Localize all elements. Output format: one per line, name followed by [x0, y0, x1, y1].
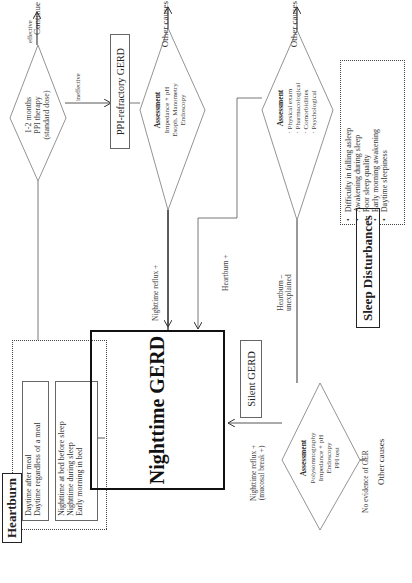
assessment-line: · Pharmacological	[293, 82, 301, 133]
ppi-therapy-text: 1-2 months PPI therapy (standard dose)	[24, 90, 52, 139]
label-line: (mucosal break +)	[258, 445, 266, 501]
nighttime-gerd-label: Nighttime GERD	[146, 336, 169, 484]
assessment-line: Endoscopy	[178, 83, 186, 137]
heartburn-title: Heartburn	[2, 473, 22, 543]
assessment-line: · Psychological	[309, 82, 317, 133]
ppi-line: (standard dose)	[43, 90, 52, 139]
flowchart-canvas: Heartburn Daytime after meal Daytime reg…	[0, 0, 412, 583]
assessment-line: Endoscopy	[324, 433, 332, 484]
heartburn-daytime-box: Daytime after meal Daytime regardless of…	[22, 381, 49, 521]
nighttime-reflux-mucosal-label: Nighttime reflux + (mucosal break +)	[250, 445, 267, 501]
sleep-item: Awakening during sleep	[353, 128, 362, 221]
daytime-item: Daytime regardless of a meal	[34, 386, 43, 516]
sleep-disturbances-title: Sleep Disturbances	[356, 208, 380, 328]
ppi-refractory-box: PPI-refractory GERD	[110, 34, 130, 149]
other-causes-refractory: Other causes	[160, 1, 170, 47]
assessment-clinical-text: Assessment · Physical exam · Pharmacolog…	[277, 82, 318, 133]
nighttime-item: Early morning in bed	[76, 386, 85, 516]
other-causes-clinical: Other causes	[289, 1, 299, 47]
heartburn-positive-label: Heartburn +	[222, 254, 230, 291]
assessment-title: Assessment	[153, 92, 162, 129]
sleep-item: Daytime sleepiness	[380, 128, 389, 221]
assessment-title: Assessment	[276, 90, 285, 127]
sleep-item: Early morning awakening	[371, 128, 380, 221]
label-line: unexplained	[285, 274, 293, 311]
assessment-title: Assessment	[299, 440, 308, 477]
ppi-refractory-label: PPI-refractory GERD	[115, 48, 126, 135]
assessment-silent-text: Assessment Polysomnography Impedance + p…	[300, 433, 341, 484]
nighttime-reflux-label: Nighttime reflux +	[152, 265, 160, 321]
assessment-line: · Physical exam	[285, 82, 293, 133]
assessment-line: Polysomnography	[308, 433, 316, 484]
nighttime-gerd-box: Nighttime GERD	[90, 330, 225, 490]
sleep-item: Poor sleep quality	[362, 128, 371, 221]
ppi-line: PPI therapy	[33, 90, 42, 139]
ineffective-label: ineffective	[74, 73, 81, 101]
assessment-line: · Comorbidities	[301, 82, 309, 133]
heartburn-unexplained-label: Heartburn – unexplained	[277, 274, 294, 311]
silent-gerd-label: Silent GERD	[246, 351, 257, 407]
ppi-line: 1-2 months	[24, 90, 33, 139]
continue-treatment-label: Continue treatment	[32, 0, 42, 35]
assessment-refractory-text: Assessment Impedance + pH Esoph. Manomet…	[154, 83, 187, 137]
assessment-line: PPI test	[332, 433, 340, 484]
no-evidence-label: No evidence of GER	[362, 450, 370, 513]
other-causes-silent: Other causes	[376, 439, 386, 485]
assessment-line: Esoph. Manometry	[170, 83, 178, 137]
assessment-line: Impedance + pH	[316, 433, 324, 484]
sleep-disturbances-list: Difficulty in falling asleep Awakening d…	[344, 128, 389, 221]
assessment-line: Impedance + pH	[162, 83, 170, 137]
sleep-item: Difficulty in falling asleep	[344, 128, 353, 221]
silent-gerd-box: Silent GERD	[240, 340, 262, 418]
